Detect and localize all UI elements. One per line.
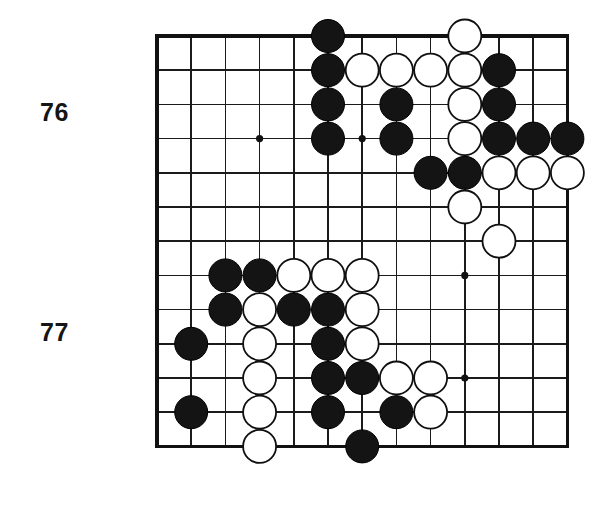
- white-stone[interactable]: [243, 362, 276, 395]
- black-stone[interactable]: [312, 54, 345, 87]
- black-stone[interactable]: [483, 54, 516, 87]
- black-stone[interactable]: [483, 122, 516, 155]
- black-stone[interactable]: [209, 259, 242, 292]
- white-stone[interactable]: [448, 88, 481, 121]
- white-stone[interactable]: [414, 396, 447, 429]
- white-stone[interactable]: [483, 156, 516, 189]
- black-stone[interactable]: [312, 396, 345, 429]
- star-point: [359, 135, 366, 142]
- white-stone[interactable]: [517, 156, 550, 189]
- white-stone[interactable]: [346, 54, 379, 87]
- black-stone[interactable]: [448, 156, 481, 189]
- white-stone[interactable]: [346, 327, 379, 360]
- white-stone[interactable]: [414, 54, 447, 87]
- star-point: [461, 374, 468, 381]
- black-stone[interactable]: [243, 259, 276, 292]
- black-stone[interactable]: [312, 327, 345, 360]
- black-stone[interactable]: [551, 122, 584, 155]
- black-stone[interactable]: [380, 88, 413, 121]
- white-stone[interactable]: [277, 259, 310, 292]
- black-stone[interactable]: [209, 293, 242, 326]
- white-stone[interactable]: [380, 362, 413, 395]
- white-stone[interactable]: [243, 396, 276, 429]
- black-stone[interactable]: [175, 327, 208, 360]
- black-stone[interactable]: [346, 362, 379, 395]
- go-board-svg[interactable]: [0, 0, 615, 511]
- black-stone[interactable]: [312, 122, 345, 155]
- black-stone[interactable]: [312, 362, 345, 395]
- white-stone[interactable]: [448, 20, 481, 53]
- white-stone[interactable]: [414, 362, 447, 395]
- white-stone[interactable]: [448, 54, 481, 87]
- white-stone[interactable]: [551, 156, 584, 189]
- white-stone[interactable]: [312, 259, 345, 292]
- white-stone[interactable]: [448, 191, 481, 224]
- black-stone[interactable]: [312, 293, 345, 326]
- black-stone[interactable]: [312, 88, 345, 121]
- black-stone[interactable]: [277, 293, 310, 326]
- black-stone[interactable]: [483, 88, 516, 121]
- black-stone[interactable]: [346, 430, 379, 463]
- star-point: [256, 135, 263, 142]
- black-stone[interactable]: [175, 396, 208, 429]
- white-stone[interactable]: [380, 54, 413, 87]
- white-stone[interactable]: [483, 225, 516, 258]
- white-stone[interactable]: [243, 430, 276, 463]
- black-stone[interactable]: [414, 156, 447, 189]
- white-stone[interactable]: [243, 327, 276, 360]
- white-stone[interactable]: [243, 293, 276, 326]
- black-stone[interactable]: [380, 122, 413, 155]
- black-stone[interactable]: [312, 20, 345, 53]
- white-stone[interactable]: [448, 122, 481, 155]
- black-stone[interactable]: [380, 396, 413, 429]
- star-point: [461, 272, 468, 279]
- white-stone[interactable]: [346, 259, 379, 292]
- diagram-root: 7677: [0, 0, 615, 511]
- white-stone[interactable]: [346, 293, 379, 326]
- black-stone[interactable]: [517, 122, 550, 155]
- go-board[interactable]: [0, 0, 615, 511]
